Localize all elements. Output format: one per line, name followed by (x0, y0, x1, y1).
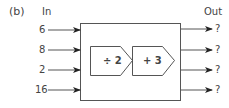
divide-function-label: ÷ 2 (103, 55, 122, 66)
input-value-1: 6 (39, 24, 45, 35)
add-function-label: + 3 (143, 55, 162, 66)
in-header: In (42, 6, 51, 17)
output-value-4: ? (215, 84, 220, 95)
input-value-4: 16 (35, 84, 48, 95)
output-value-1: ? (215, 23, 220, 34)
out-header: Out (204, 6, 222, 17)
output-value-2: ? (215, 44, 220, 55)
function-machine-diagram: (b) In Out ÷ 2 + 3 6 8 2 16 ? ? ? ? (0, 0, 229, 108)
part-label: (b) (9, 5, 25, 18)
output-value-3: ? (215, 64, 220, 75)
input-value-2: 8 (39, 44, 45, 55)
input-value-3: 2 (39, 64, 45, 75)
